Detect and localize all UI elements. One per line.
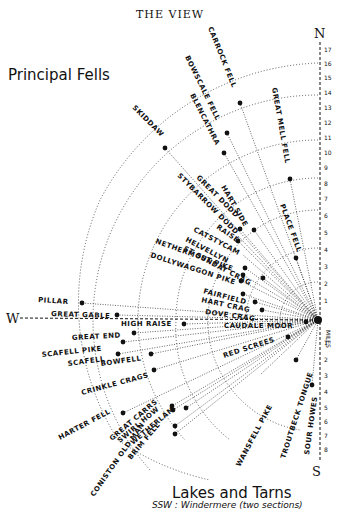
fell-label: WANSFELL PIKE (235, 403, 275, 468)
svg-text:5: 5 (324, 404, 328, 411)
svg-text:10: 10 (324, 149, 332, 156)
view-diagram: N S W MILES 1 2 3 4 5 6 7 8 9 10 11 12 1… (0, 0, 338, 509)
svg-text:13: 13 (324, 104, 332, 111)
fell-label: SOUR HOWES (303, 396, 319, 455)
fell-labels: CARROCK FELL BOWSCALE FELL BLENCATHRA SK… (38, 26, 319, 498)
svg-text:1: 1 (324, 297, 328, 304)
svg-text:2: 2 (324, 280, 328, 287)
fell-label: PILLAR (38, 296, 69, 306)
svg-text:6: 6 (324, 418, 328, 425)
svg-text:16: 16 (324, 60, 332, 67)
fell-label: GREAT GABLE (51, 310, 110, 320)
svg-text:6: 6 (324, 212, 328, 219)
fell-label: CRINKLE CRAGS (80, 371, 149, 397)
svg-text:1: 1 (324, 339, 328, 346)
svg-text:3: 3 (324, 372, 328, 379)
svg-text:14: 14 (324, 89, 332, 96)
svg-text:12: 12 (324, 119, 332, 126)
fell-label: PLACE FELL (278, 203, 303, 254)
fell-label: HIGH RAISE (121, 320, 172, 328)
compass-north: N (314, 26, 325, 41)
svg-text:2: 2 (324, 356, 328, 363)
svg-text:5: 5 (324, 229, 328, 236)
fell-label: GREAT END (72, 331, 121, 342)
fell-label: RED SCREES (222, 336, 275, 360)
svg-text:4: 4 (324, 246, 328, 253)
fell-label: CAUDALE MOOR (224, 322, 293, 330)
south-mile-ticks: 1 2 3 4 5 6 7 8 (324, 339, 328, 453)
svg-text:15: 15 (324, 74, 332, 81)
fell-label: HARTER FELL (57, 408, 112, 442)
svg-text:11: 11 (324, 134, 332, 141)
fell-label: GREAT MELL FELL (270, 87, 291, 164)
svg-text:4: 4 (324, 388, 328, 395)
north-mile-ticks: 1 2 3 4 5 6 7 8 9 10 11 12 13 14 15 16 1… (324, 46, 332, 304)
svg-text:17: 17 (324, 46, 332, 53)
fell-label: BOWFELL (100, 354, 142, 368)
compass-south: S (312, 464, 321, 479)
svg-text:3: 3 (324, 263, 328, 270)
svg-text:9: 9 (324, 164, 328, 171)
svg-text:7: 7 (324, 195, 328, 202)
compass-west: W (6, 311, 20, 326)
svg-text:7: 7 (324, 432, 328, 439)
svg-text:8: 8 (324, 180, 328, 187)
svg-text:8: 8 (324, 446, 328, 453)
fell-label: CARROCK FELL (206, 26, 238, 89)
fell-label: SKIDDAW (131, 104, 166, 139)
